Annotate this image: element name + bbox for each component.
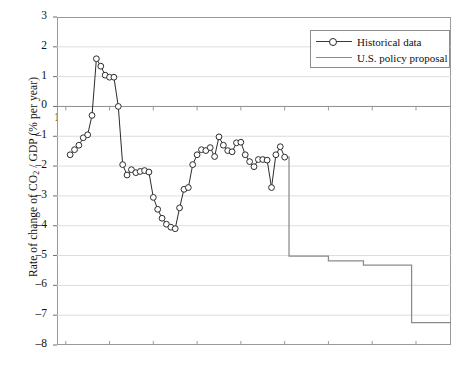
legend-swatch-us-policy-proposal (316, 52, 352, 64)
chart-legend: Historical data U.S. policy proposal (310, 30, 450, 68)
y-tick-label: –6 (17, 277, 47, 289)
y-tick-label: –1 (17, 128, 47, 140)
legend-item-historical-data: Historical data (316, 34, 444, 50)
y-tick-label: 2 (17, 39, 47, 51)
y-axis-label-post: / GDP (% per year) (27, 77, 39, 171)
y-tick-label: 1 (17, 69, 47, 81)
y-tick-label: 3 (17, 9, 47, 21)
y-tick-label: –5 (17, 248, 47, 260)
y-tick-label: 0 (17, 98, 47, 110)
chart-figure: Rate of change of CO2 / GDP (% per year)… (0, 0, 469, 366)
legend-item-us-policy-proposal: U.S. policy proposal (316, 50, 444, 66)
legend-label-us-policy-proposal: U.S. policy proposal (357, 52, 447, 64)
y-tick-label: –7 (17, 307, 47, 319)
y-axis-label-subscript: 2 (32, 171, 41, 175)
legend-swatch-historical-data (316, 36, 352, 48)
legend-label-historical-data: Historical data (357, 36, 421, 48)
y-tick-label: –4 (17, 218, 47, 230)
y-tick-label: –3 (17, 188, 47, 200)
y-tick-label: –8 (17, 337, 47, 349)
y-tick-label: –2 (17, 158, 47, 170)
y-axis-label: Rate of change of CO2 / GDP (% per year) (27, 47, 41, 307)
